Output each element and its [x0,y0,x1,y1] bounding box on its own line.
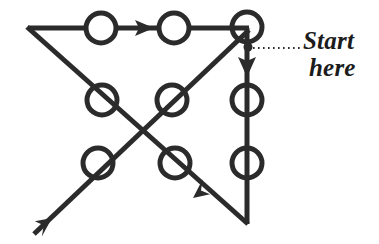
diagram-canvas: Start here [0,0,379,244]
node-layer [83,12,262,178]
node-circle[interactable] [86,13,116,43]
start-point-marker [244,43,253,52]
start-label-line2: here [309,54,356,81]
edge-layer [27,27,249,234]
node-circle[interactable] [159,13,189,43]
node-circle[interactable] [160,148,190,178]
start-label-line1: Start [303,27,354,54]
edge-diagonal-descending [27,27,248,224]
start-annotation-layer [244,43,302,52]
